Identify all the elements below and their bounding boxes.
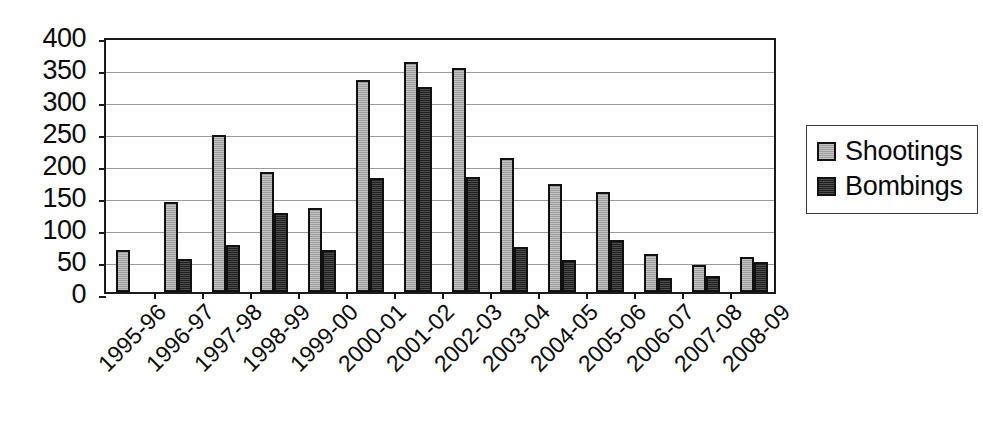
bar-shootings xyxy=(548,184,562,292)
x-axis-tick-mark xyxy=(202,292,204,299)
bar-bombings xyxy=(418,87,432,292)
y-axis-tick-mark xyxy=(99,104,106,106)
x-axis-tick-mark xyxy=(442,292,444,299)
x-axis-tick-mark xyxy=(586,292,588,299)
x-axis-tick-mark xyxy=(298,292,300,299)
bar-bombings xyxy=(514,247,528,292)
x-axis-tick-mark xyxy=(634,292,636,299)
bar-bombings xyxy=(370,178,384,292)
bar-bombings xyxy=(466,177,480,292)
y-axis-tick-mark xyxy=(99,72,106,74)
y-axis-tick-mark xyxy=(99,264,106,266)
y-axis-tick-label: 150 xyxy=(42,185,86,212)
y-axis-tick-label: 0 xyxy=(71,281,86,308)
bar-bombings xyxy=(706,276,720,292)
y-axis-tick-labels: 400350300250200150100500 xyxy=(20,24,96,304)
y-axis-tick-mark xyxy=(99,200,106,202)
bar-bombings xyxy=(274,213,288,292)
bar-shootings xyxy=(404,62,418,292)
bar-bombings xyxy=(322,250,336,292)
x-axis-tick-mark xyxy=(346,292,348,299)
y-axis-tick-label: 300 xyxy=(42,89,86,116)
bar-shootings xyxy=(740,257,754,292)
bars-layer xyxy=(106,40,774,292)
bar-shootings xyxy=(500,158,514,292)
bar-shootings xyxy=(692,265,706,292)
bar-shootings xyxy=(596,192,610,292)
x-axis-tick-mark xyxy=(250,292,252,299)
bar-shootings xyxy=(452,68,466,292)
legend-item-bombings: Bombings xyxy=(817,169,963,204)
bar-chart: 400350300250200150100500 1995-961996-971… xyxy=(0,0,983,428)
legend-swatch-shootings-icon xyxy=(817,142,836,161)
y-axis-tick-mark xyxy=(99,232,106,234)
y-axis-tick-label: 350 xyxy=(42,57,86,84)
bar-bombings xyxy=(562,260,576,292)
bar-shootings xyxy=(164,202,178,292)
bar-shootings xyxy=(212,135,226,292)
x-axis-tick-mark xyxy=(154,292,156,299)
legend-label-bombings: Bombings xyxy=(845,173,963,200)
bar-shootings xyxy=(356,80,370,292)
y-axis-tick-label: 50 xyxy=(57,249,86,276)
y-axis-tick-mark xyxy=(99,40,106,42)
chart-legend: Shootings Bombings xyxy=(806,125,978,214)
bar-shootings xyxy=(116,250,130,292)
y-axis-tick-mark xyxy=(99,296,106,298)
bar-bombings xyxy=(178,259,192,292)
bar-shootings xyxy=(644,254,658,292)
y-axis-tick-label: 100 xyxy=(42,217,86,244)
y-axis-tick-label: 400 xyxy=(42,25,86,52)
x-axis-tick-mark xyxy=(394,292,396,299)
legend-label-shootings: Shootings xyxy=(845,138,962,165)
y-axis-tick-mark xyxy=(99,168,106,170)
bar-bombings xyxy=(754,262,768,292)
bar-shootings xyxy=(260,172,274,292)
bar-bombings xyxy=(226,245,240,292)
x-axis-tick-mark xyxy=(730,292,732,299)
legend-item-shootings: Shootings xyxy=(817,134,963,169)
y-axis-tick-mark xyxy=(99,136,106,138)
legend-swatch-bombings-icon xyxy=(817,177,836,196)
bar-bombings xyxy=(610,240,624,292)
plot-area xyxy=(104,38,776,294)
x-axis-tick-mark xyxy=(490,292,492,299)
y-axis-tick-label: 200 xyxy=(42,153,86,180)
bar-bombings xyxy=(658,278,672,292)
x-axis-tick-mark xyxy=(682,292,684,299)
x-axis-tick-mark xyxy=(538,292,540,299)
y-axis-tick-label: 250 xyxy=(42,121,86,148)
bar-shootings xyxy=(308,208,322,292)
x-axis-tick-labels: 1995-961996-971997-981998-991999-002000-… xyxy=(104,300,776,420)
